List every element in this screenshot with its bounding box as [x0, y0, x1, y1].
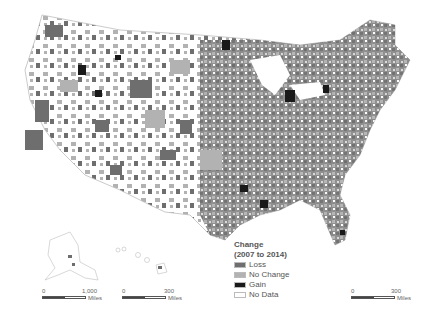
- loss-swatch: [234, 262, 246, 268]
- scale-end: 300: [164, 288, 174, 294]
- scale-unit: Miles: [397, 295, 411, 301]
- no-change-swatch: [234, 272, 246, 278]
- us-map-graphic: [0, 0, 432, 313]
- legend-label: Gain: [249, 280, 266, 290]
- scale-end: 300: [391, 288, 401, 294]
- legend-item-loss: Loss: [234, 260, 314, 270]
- legend-label: No Change: [249, 270, 289, 280]
- legend-subtitle: (2007 to 2014): [234, 250, 314, 260]
- scale-unit: Miles: [88, 295, 102, 301]
- hawaii: [116, 247, 167, 274]
- scale-unit: Miles: [168, 295, 182, 301]
- legend-item-gain: Gain: [234, 280, 314, 290]
- choropleth-map: Change (2007 to 2014) Loss No Change Gai…: [0, 0, 432, 313]
- legend-item-no-data: No Data: [234, 290, 314, 300]
- scalebar-alaska: 0 1,000 Miles: [42, 288, 102, 299]
- scale-end: 1,000: [82, 288, 97, 294]
- map-legend: Change (2007 to 2014) Loss No Change Gai…: [234, 240, 314, 300]
- legend-item-no-change: No Change: [234, 270, 314, 280]
- scale-start: 0: [351, 288, 354, 294]
- legend-title: Change: [234, 240, 314, 250]
- scalebar-hawaii: 0 300 Miles: [122, 288, 182, 299]
- gain-swatch: [234, 282, 246, 288]
- scalebar-contiguous: 0 300 Miles: [351, 288, 421, 299]
- legend-label: Loss: [249, 260, 266, 270]
- scale-start: 0: [42, 288, 45, 294]
- legend-label: No Data: [249, 290, 278, 300]
- no-data-swatch: [234, 292, 246, 298]
- scale-start: 0: [122, 288, 125, 294]
